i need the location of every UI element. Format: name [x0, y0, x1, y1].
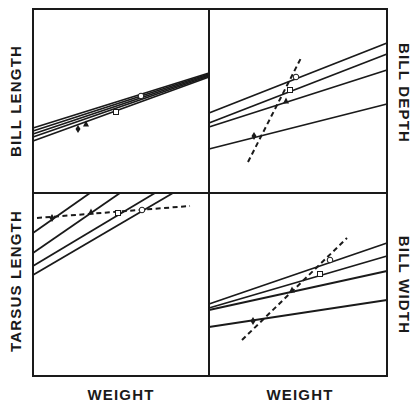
regression-line	[209, 54, 387, 123]
panel-bill-width	[209, 238, 387, 340]
dashed-trend-line	[248, 56, 302, 162]
regression-line	[33, 77, 209, 141]
diamond-marker	[251, 317, 256, 325]
regression-line	[33, 75, 209, 134]
circle-marker	[293, 74, 299, 80]
regression-line	[33, 76, 209, 137]
y-axis-label-bill-width: BILL WIDTH	[396, 236, 413, 334]
regression-line	[209, 256, 387, 308]
circle-marker	[138, 93, 144, 99]
panel-bill-length	[33, 73, 209, 141]
regression-line	[33, 73, 209, 128]
x-axis-label-weight-left: WEIGHT	[87, 386, 154, 403]
panel-tarsus-length	[33, 193, 190, 275]
regression-line	[33, 193, 90, 233]
y-axis-label-bill-depth: BILL DEPTH	[396, 43, 413, 143]
square-marker	[116, 211, 121, 216]
circle-marker	[327, 257, 333, 263]
y-axis-label-tarsus-length: TARSUS LENGTH	[7, 210, 24, 352]
panel-bill-depth	[209, 43, 387, 162]
regression-line	[33, 74, 209, 131]
square-marker	[318, 272, 323, 277]
y-axis-label-bill-length: BILL LENGTH	[7, 45, 24, 157]
regression-line	[209, 104, 387, 149]
circle-marker	[139, 207, 145, 213]
figure-canvas	[0, 0, 418, 408]
square-marker	[114, 110, 119, 115]
x-axis-label-weight-right: WEIGHT	[266, 386, 333, 403]
triangle-marker	[283, 98, 289, 104]
regression-line	[209, 243, 387, 304]
square-marker	[288, 88, 293, 93]
regression-line	[33, 193, 155, 266]
dashed-trend-line	[37, 206, 190, 218]
dashed-trend-line	[242, 238, 347, 340]
